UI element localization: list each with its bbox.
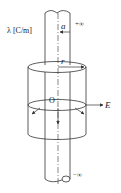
field-e-label: E xyxy=(104,100,111,110)
line-charge-diagram: λ [C/m] a +∞ r O E −∞ xyxy=(0,0,121,193)
cylinder-midplane xyxy=(28,100,86,111)
wire-inner xyxy=(45,72,70,139)
charge-density-label: λ [C/m] xyxy=(7,26,32,35)
wire-lower xyxy=(45,139,70,182)
origin-label: O xyxy=(49,96,55,105)
plus-infinity-label: +∞ xyxy=(75,20,84,28)
minus-infinity-label: −∞ xyxy=(73,171,82,179)
field-arrow-right xyxy=(75,108,84,114)
wire-upper xyxy=(45,11,70,66)
radius-r-label: r xyxy=(61,56,65,66)
gaussian-cylinder xyxy=(28,62,86,140)
radius-a-label: a xyxy=(61,21,66,31)
